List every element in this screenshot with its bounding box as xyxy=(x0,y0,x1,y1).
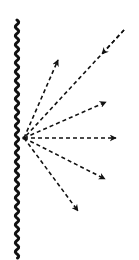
reflection-diagram xyxy=(0,0,139,260)
ray-lower-right-arrow xyxy=(24,138,105,179)
outgoing-rays xyxy=(24,60,116,211)
incoming-ray-arrow xyxy=(102,30,124,54)
ray-upper-right-arrow xyxy=(24,102,106,138)
wavy-surface xyxy=(15,20,18,258)
incoming-ray xyxy=(24,30,124,138)
ray-down-arrow xyxy=(24,138,78,211)
ray-up-arrow xyxy=(24,60,58,138)
source-point xyxy=(22,136,26,140)
